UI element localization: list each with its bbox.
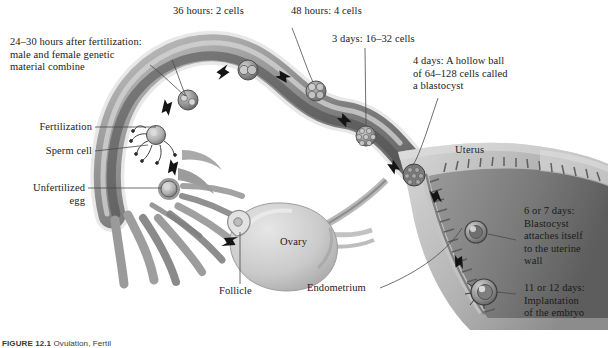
cell-morula	[356, 126, 376, 146]
callout-3-days: 3 days: 16–32 cells	[332, 33, 415, 46]
cell-blastocyst-entering	[403, 164, 425, 186]
cell-blastocyst-attaching	[465, 221, 487, 243]
cell-unfertilized-egg	[158, 178, 180, 200]
figure-caption-number: FIGURE 12.1	[2, 339, 51, 348]
callout-36-hours: 36 hours: 2 cells	[173, 5, 244, 18]
callout-unfertilized-egg: Unfertilized egg	[0, 182, 85, 207]
callout-follicle: Follicle	[219, 285, 252, 298]
callout-endometrium: Endometrium	[307, 282, 366, 295]
figure-caption-text: Ovulation, Fertil	[53, 339, 111, 348]
cell-fertilization	[130, 126, 177, 165]
callout-4-days: 4 days: A hollow ball of 64–128 cells ca…	[413, 55, 533, 93]
fimbriae	[115, 150, 244, 284]
figure-caption: FIGURE 12.1 Ovulation, Fertil	[2, 339, 111, 348]
anatomy-label-uterus: Uterus	[455, 144, 484, 155]
cell-4-cell	[306, 81, 326, 101]
anatomy-label-ovary: Ovary	[280, 236, 307, 247]
callout-fertilization: Fertilization	[0, 121, 92, 134]
cell-zygote	[178, 90, 198, 110]
cell-2-cell	[238, 60, 258, 80]
callout-24-30-hours: 24–30 hours after fertilization: male an…	[10, 36, 185, 74]
callout-48-hours: 48 hours: 4 cells	[291, 5, 362, 18]
callout-11-12-days: 11 or 12 days: Implantation of the embry…	[524, 282, 608, 320]
callout-sperm-cell: Sperm cell	[0, 145, 92, 158]
callout-6-7-days: 6 or 7 days: Blastocyst attaches itself …	[524, 205, 608, 268]
